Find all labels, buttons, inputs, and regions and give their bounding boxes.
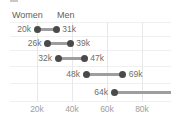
- clipped-title-fragment: [10, 0, 18, 2]
- x-axis-tick-label: 40k: [65, 105, 79, 114]
- legend-label-women: Women: [12, 10, 43, 20]
- grid-line-horizontal: [10, 36, 171, 37]
- women-value-label: 32k: [38, 54, 52, 63]
- men-dot: [67, 40, 74, 47]
- women-value-label: 48k: [66, 70, 80, 79]
- x-axis-tick-label: 20k: [30, 105, 44, 114]
- men-value-label: 69k: [129, 70, 143, 79]
- x-axis-tick-label: 80k: [135, 105, 149, 114]
- women-dot: [34, 26, 41, 33]
- grid-line-vertical: [72, 22, 73, 101]
- women-dot: [55, 55, 62, 62]
- legend-label-men: Men: [57, 10, 75, 20]
- women-dot: [111, 89, 118, 96]
- men-dot: [119, 71, 126, 78]
- dumbbell-connector: [114, 91, 171, 94]
- men-value-label: 39k: [76, 39, 90, 48]
- grid-line-horizontal: [10, 83, 171, 84]
- men-value-label: 31k: [62, 25, 76, 34]
- grid-line-vertical: [142, 22, 143, 101]
- dumbbell-chart: Women Men 20k40k60k80k20k31k26k39k32k47k…: [0, 0, 171, 127]
- x-axis-tick-label: 60k: [100, 105, 114, 114]
- women-value-label: 20k: [17, 25, 31, 34]
- women-dot: [44, 40, 51, 47]
- women-value-label: 26k: [28, 39, 42, 48]
- grid-line-horizontal: [10, 50, 171, 51]
- men-value-label: 47k: [90, 54, 104, 63]
- grid-line-horizontal: [10, 66, 171, 67]
- women-dot: [83, 71, 90, 78]
- men-dot: [53, 26, 60, 33]
- women-value-label: 64k: [94, 88, 108, 97]
- men-dot: [81, 55, 88, 62]
- dumbbell-connector: [86, 73, 123, 76]
- grid-line-horizontal: [10, 22, 171, 23]
- grid-line-horizontal: [10, 101, 171, 102]
